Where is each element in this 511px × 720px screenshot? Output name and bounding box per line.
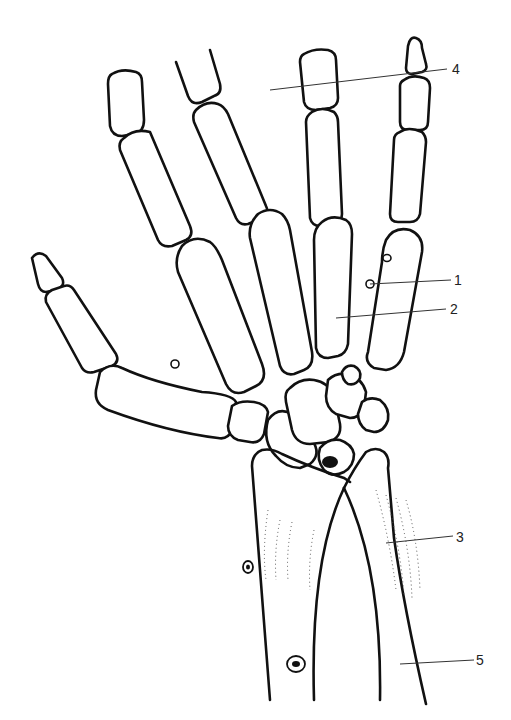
leader-line-3 bbox=[386, 536, 453, 543]
label-3: 3 bbox=[456, 530, 464, 544]
forearm-bones bbox=[252, 449, 426, 704]
label-1: 1 bbox=[454, 273, 462, 287]
label-5: 5 bbox=[476, 653, 484, 667]
ring-finger-bones bbox=[300, 50, 352, 359]
label-4: 4 bbox=[452, 62, 460, 76]
leader-line-5 bbox=[400, 660, 474, 664]
label-2: 2 bbox=[450, 302, 458, 316]
hand-skeleton-diagram bbox=[0, 0, 511, 720]
index-finger-bones bbox=[108, 70, 264, 393]
little-finger-bones bbox=[367, 38, 430, 370]
